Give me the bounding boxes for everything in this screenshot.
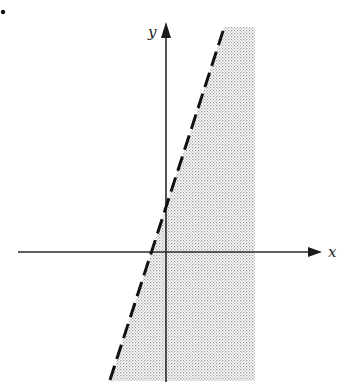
bullet-marker — [1, 10, 5, 14]
y-axis-label: y — [147, 23, 157, 41]
inequality-graph: x y — [0, 0, 355, 384]
shaded-region — [110, 27, 255, 381]
x-axis-label: x — [328, 243, 337, 261]
x-axis-arrow-icon — [308, 247, 322, 257]
y-axis-arrow-icon — [161, 22, 171, 38]
